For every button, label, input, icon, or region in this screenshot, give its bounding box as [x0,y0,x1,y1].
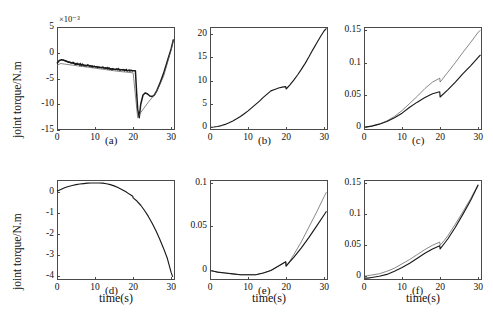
series-reference [57,39,173,117]
panel-c-xtick-mark [440,127,441,130]
panel-d-ytick-mark [57,234,60,235]
panel-f-ytick-mark [364,245,367,246]
series-measured [210,28,326,127]
panel-c-ytick: 0.1 [349,58,361,68]
panel-a-letter: (a) [105,134,117,146]
panel-a-xtick-mark [133,127,134,130]
panel-d-xtick-mark [57,277,58,280]
panel-e-xtick-mark [248,277,249,280]
panel-c-ytick: 0.05 [344,90,361,100]
panel-b-ytick-mark [210,34,213,35]
panel-d-ytick: 0 [49,187,54,197]
panel-c-curves [364,27,482,130]
panel-d-xtick: 30 [166,283,176,293]
panel-d-ytick: -1 [46,208,54,218]
panel-c-xtick: 0 [362,133,367,143]
panel-b-letter: (b) [258,134,271,146]
panel-a-xtick: 30 [166,133,176,143]
series-measured [57,183,173,277]
panel-c: 0.150.10.0500102030(c) [364,27,482,130]
panel-b-xtick-mark [324,127,325,130]
panel-e-ytick-mark [210,226,213,227]
panel-b: 201510500102030(b) [210,27,328,130]
panel-a-ytick: -5 [46,74,54,84]
y-axis-label-row1: joint torque/N.m [11,18,23,138]
panel-a-ytick-mark [57,53,60,54]
panel-f-ytick: 0 [356,272,361,282]
panel-b-ytick: 15 [198,53,208,63]
panel-e-ytick: 0 [202,265,207,275]
panel-f-curves [364,180,482,280]
panel-e-ytick-mark [210,183,213,184]
panel-f-ytick-mark [364,183,367,184]
panel-c-xtick: 30 [473,133,483,143]
panel-a-ytick-mark [57,79,60,80]
panel-a-ytick: 0 [49,48,54,58]
panel-a-ytick: -10 [41,100,54,110]
panel-c-ytick: 0.15 [344,25,361,35]
panel-d-ytick: -3 [46,250,54,260]
panel-a-xtick: 0 [55,133,60,143]
x-axis-label-e: time(s) [219,291,319,306]
panel-e-ytick: 0.05 [190,221,207,231]
panel-c-xtick-mark [364,127,365,130]
panel-a-ytick-mark [57,130,60,131]
panel-f-xtick-mark [402,277,403,280]
panel-d-xtick-mark [171,277,172,280]
panel-b-xtick-mark [210,127,211,130]
panel-e-ytick: 0.1 [195,178,207,188]
series-reference [210,192,326,275]
panel-b-ytick: 10 [198,76,208,86]
panel-f-xtick: 0 [362,283,367,293]
panel-f-xtick: 30 [473,283,483,293]
panel-b-xtick-mark [248,127,249,130]
panel-e-xtick: 0 [208,283,213,293]
panel-c-ytick-mark [364,95,367,96]
panel-b-ytick: 0 [202,122,207,132]
series-reference [364,184,478,276]
panel-d: 0-1-2-3-40102030(d) [57,180,175,280]
panel-c-ytick-mark [364,30,367,31]
panel-b-ytick-mark [210,104,213,105]
panel-b-curves [210,27,328,130]
panel-d-ytick: -2 [46,229,54,239]
panel-c-xtick: 20 [435,133,445,143]
series-measured [57,39,173,117]
panel-d-xtick: 0 [55,283,60,293]
panel-a-exponent: ×10⁻³ [59,14,80,24]
panel-e-xtick-mark [324,277,325,280]
panel-f-xtick-mark [478,277,479,280]
series-measured-noise [63,60,133,71]
x-axis-label-d: time(s) [66,291,166,306]
panel-e-ytick-mark [210,270,213,271]
panel-d-curves [57,180,175,280]
panel-c-xtick-mark [402,127,403,130]
panel-d-ytick-mark [57,213,60,214]
x-axis-label-f: time(s) [373,291,473,306]
panel-d-ytick: -4 [46,271,54,281]
panel-c-letter: (c) [412,134,424,146]
panel-f-ytick: 0.05 [344,240,361,250]
panel-a-ytick-mark [57,27,60,28]
panel-f-ytick-mark [364,214,367,215]
panel-a-xtick: 20 [128,133,138,143]
panel-e-xtick-mark [286,277,287,280]
panel-b-ytick-mark [210,81,213,82]
panel-b-ytick: 20 [198,29,208,39]
panel-c-ytick: 0 [356,123,361,133]
panel-c-xtick: 10 [397,133,407,143]
panel-f-xtick-mark [440,277,441,280]
panel-a-xtick-mark [57,127,58,130]
panel-a-curves [57,27,175,130]
panel-b-ytick: 5 [202,99,207,109]
panel-f-xtick-mark [364,277,365,280]
panel-a-ytick: -15 [41,125,54,135]
panel-c-xtick-mark [478,127,479,130]
series-measured [364,185,478,278]
panel-b-xtick-mark [286,127,287,130]
panel-a-ytick-mark [57,104,60,105]
figure-root: joint torque/N.m joint torque/N.m ×10⁻³ … [0,0,493,313]
panel-a-ytick: 5 [49,22,54,32]
panel-d-xtick-mark [133,277,134,280]
y-axis-label-row2: joint torque/N.m [11,170,23,290]
